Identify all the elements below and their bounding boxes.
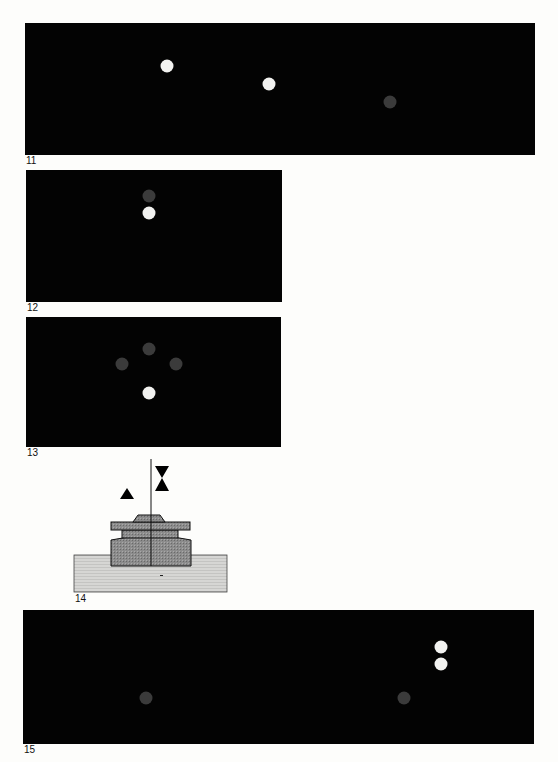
figure-15-panel bbox=[23, 610, 534, 744]
triangle-marker-icon bbox=[120, 488, 134, 499]
grey-dot bbox=[398, 692, 411, 705]
hourglass-marker-icon bbox=[155, 466, 169, 491]
white-dot bbox=[435, 658, 448, 671]
component-cap bbox=[133, 515, 165, 522]
white-dot bbox=[435, 641, 448, 654]
grey-dot bbox=[140, 692, 153, 705]
figure-15-label: 15 bbox=[24, 745, 35, 755]
figure-14-label: 14 bbox=[75, 594, 86, 604]
component-neck bbox=[122, 530, 178, 538]
